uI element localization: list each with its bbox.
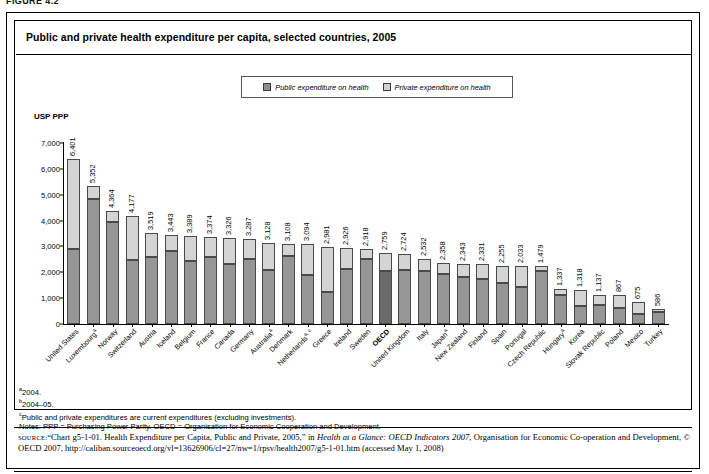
bar-stack [360,249,373,324]
y-axis-title: USP PPP [34,112,69,121]
bar-value-label: 1,137 [594,273,603,292]
chart-title: Public and private health expenditure pe… [26,31,396,43]
y-tick-label: 7,000 [41,139,60,148]
legend-label-public: Public expenditure on health [275,83,368,92]
bar-segment-public [282,256,295,324]
bar-segment-public [574,306,587,324]
bar-segment-private [574,290,587,306]
bar-value-label: 675 [633,286,642,298]
bar-segment-private [437,263,450,274]
footnote-c-text: Public and private expenditures are curr… [22,412,296,421]
bar-stack [398,254,411,324]
source-divider-bottom [14,471,692,472]
bar-value-label: 4,364 [107,190,116,209]
x-tick-mark [93,324,94,327]
bar-stack [476,264,489,324]
bar-segment-public [243,259,256,324]
bar-segment-private [145,233,158,257]
bar-value-label: 2,724 [399,232,408,251]
bar-segment-private [360,249,373,260]
y-tick-label: 3,000 [41,242,60,251]
bar-segment-private [165,235,178,251]
bar-segment-private [379,253,392,271]
bar-segment-private [262,243,275,270]
source-block: SOURCE:“Chart g5-1-01. Health Expenditur… [18,432,690,454]
bar-stack [165,235,178,324]
bar-value-label: 867 [614,279,623,291]
bar-value-label: 2,343 [458,242,467,261]
legend-swatch-private-icon [383,83,391,91]
y-tick-label: 2,000 [41,268,60,277]
bar-segment-public [360,259,373,324]
x-tick-mark [405,324,406,327]
bar-segment-private [496,266,509,283]
x-tick-mark [249,324,250,327]
bar-segment-private [613,295,626,309]
figure-frame: Public and private health expenditure pe… [6,12,700,469]
x-tick-mark [366,324,367,327]
bar-value-label: 3,326 [224,217,233,236]
bar-stack [106,211,119,324]
x-tick-mark [308,324,309,327]
bar-stack [243,239,256,324]
footnote-b-text: 2004–05. [22,400,54,409]
x-tick-mark [522,324,523,327]
bar-stack [262,243,275,324]
bar-value-label: 3,108 [283,222,292,241]
x-tick-mark [347,324,348,327]
bar-value-label: 1,337 [555,268,564,287]
x-tick-mark [502,324,503,327]
bar-segment-public [613,308,626,324]
bar-segment-private [282,244,295,256]
bar-stack [282,244,295,324]
bar-value-label: 3,128 [263,222,272,241]
x-tick-mark [483,324,484,327]
bar-stack [652,309,665,324]
bar-stack [457,264,470,324]
x-tick-mark [230,324,231,327]
bar-segment-public [321,292,334,324]
bar-segment-public [67,249,80,324]
bar-segment-public [535,271,548,324]
bar-segment-private [652,309,665,312]
bar-segment-public [126,260,139,324]
bar-value-label: 3,389 [185,215,194,234]
bar-segment-public [457,277,470,324]
bar-segment-private [321,247,334,292]
y-tick-label: 5,000 [41,190,60,199]
source-divider-top [14,427,692,428]
y-tick-label: 4,000 [41,216,60,225]
bar-value-label: 2,255 [497,244,506,263]
bar-segment-public [262,270,275,324]
x-tick-mark [269,324,270,327]
bar-stack [496,266,509,324]
legend-item-private: Private expenditure on health [383,83,491,92]
bar-stack [67,159,80,325]
bar-segment-private [184,236,197,261]
bar-segment-private [67,159,80,250]
x-tick-mark [171,324,172,327]
x-tick-mark [74,324,75,327]
bar-segment-public [87,199,100,324]
x-tick-mark [444,324,445,327]
x-tick-mark [152,324,153,327]
bar-segment-private [87,186,100,200]
footnote-a: a2004. [19,385,689,397]
bar-segment-public [301,275,314,324]
bar-segment-private [476,264,489,279]
bar-value-label: 3,443 [166,213,175,232]
bar-value-label: 5,352 [88,164,97,183]
bar-value-label: 2,918 [361,227,370,246]
plot-area: 01,0002,0003,0004,0005,0006,0007,000 6,4… [64,143,668,324]
bar-stack [301,244,314,324]
y-tick-label: 1,000 [41,294,60,303]
source-text-1: “Chart g5-1-01. Health Expenditure per C… [47,432,317,442]
bar-segment-private [223,238,236,264]
bar-segment-private [535,266,548,272]
bar-segment-public [204,257,217,324]
bar-value-label: 586 [653,294,662,306]
bar-stack [515,266,528,324]
source-italic-1: Health at a Glance: OECD Indicators 2007 [317,432,469,442]
bar-value-label: 1,318 [575,268,584,287]
bar-value-label: 2,331 [477,242,486,261]
